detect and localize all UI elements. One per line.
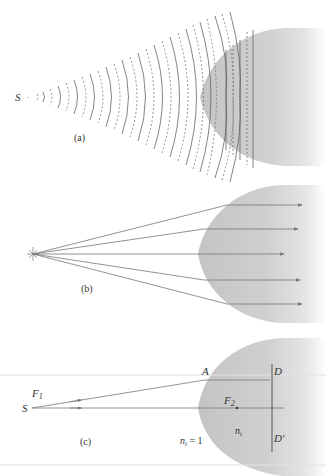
panel-c: S F1 A D D′ F2 nt ni = 1 (c) bbox=[0, 338, 326, 476]
source-label-c: S bbox=[22, 402, 28, 414]
focus1-label: F1 bbox=[31, 387, 43, 401]
point-d-label: D bbox=[273, 365, 282, 377]
lens-a bbox=[200, 28, 326, 166]
focus2-dot bbox=[236, 407, 238, 409]
caption-c: (c) bbox=[80, 436, 91, 448]
panel-b: (b) bbox=[27, 185, 326, 323]
source-label-a: S bbox=[15, 91, 21, 103]
n-outside-label: ni = 1 bbox=[180, 435, 203, 448]
source-dot-a: · bbox=[27, 93, 30, 102]
caption-a: (a) bbox=[74, 132, 85, 144]
point-d-prime-label: D′ bbox=[273, 432, 285, 444]
hyperbolic-lens-figure: S · (a) (b) bbox=[0, 0, 326, 476]
lens-c bbox=[198, 338, 326, 476]
point-a-label: A bbox=[201, 365, 209, 377]
caption-b: (b) bbox=[81, 283, 93, 295]
panel-a: S · (a) bbox=[15, 12, 326, 182]
